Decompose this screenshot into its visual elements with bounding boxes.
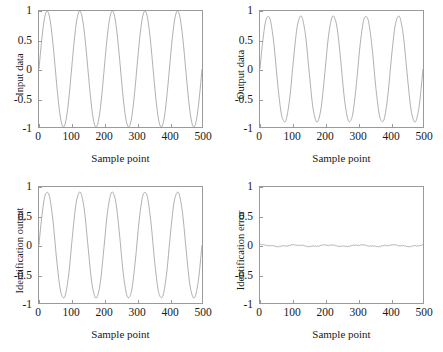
plot-svg-identification-error bbox=[260, 187, 423, 303]
curve-identification-output bbox=[39, 192, 202, 298]
plot-area-identification-error bbox=[259, 186, 424, 304]
x-tick-label: 400 bbox=[382, 306, 399, 318]
y-axis-label-output: Output data bbox=[235, 25, 246, 125]
curve-identification-error bbox=[260, 244, 423, 247]
curve-input-data bbox=[39, 11, 202, 127]
x-tick-label: 400 bbox=[161, 306, 178, 318]
panel-input-data: 10.50-0.5-1 0100200300400500 Input data … bbox=[0, 0, 222, 176]
x-tick-label: 100 bbox=[62, 130, 79, 142]
y-tick-label: 0 bbox=[26, 239, 32, 251]
y-tick-label: 0 bbox=[247, 239, 253, 251]
x-tick-labels-input: 0100200300400500 bbox=[38, 129, 203, 145]
x-tick-label: 400 bbox=[161, 130, 178, 142]
x-tick-label: 0 bbox=[35, 130, 41, 142]
plot-svg-output-data bbox=[260, 11, 423, 127]
x-tick-labels-identification-error: 0100200300400500 bbox=[259, 305, 424, 321]
x-tick-label: 300 bbox=[349, 306, 366, 318]
x-tick-label: 200 bbox=[316, 306, 333, 318]
x-tick-labels-output: 0100200300400500 bbox=[259, 129, 424, 145]
x-tick-label: 0 bbox=[35, 306, 41, 318]
x-tick-label: 0 bbox=[256, 306, 262, 318]
x-tick-labels-identification-output: 0100200300400500 bbox=[38, 305, 203, 321]
x-axis-label-identification-output: Sample point bbox=[38, 328, 203, 340]
x-axis-label-output: Sample point bbox=[259, 152, 424, 164]
y-tick-label: 0 bbox=[247, 63, 253, 75]
panel-identification-error: 10.50-0.5-1 0100200300400500 Identificat… bbox=[221, 176, 443, 352]
y-tick-label: 1 bbox=[26, 4, 32, 16]
y-axis-label-input: Input data bbox=[14, 25, 25, 125]
x-tick-label: 200 bbox=[95, 306, 112, 318]
x-tick-label: 200 bbox=[316, 130, 333, 142]
figure-four-panel-identification: 10.50-0.5-1 0100200300400500 Input data … bbox=[0, 0, 443, 352]
x-tick-label: 0 bbox=[256, 130, 262, 142]
y-tick-label: 1 bbox=[247, 180, 253, 192]
y-axis-label-identification-output: Identification output bbox=[14, 201, 25, 301]
y-tick-label: 1 bbox=[247, 4, 253, 16]
x-tick-label: 200 bbox=[95, 130, 112, 142]
x-tick-label: 400 bbox=[382, 130, 399, 142]
x-tick-label: 100 bbox=[283, 130, 300, 142]
y-tick-label: 0 bbox=[26, 63, 32, 75]
plot-area-input-data bbox=[38, 10, 203, 128]
y-axis-label-identification-error: Identification error bbox=[235, 201, 246, 301]
x-tick-label: 300 bbox=[349, 130, 366, 142]
panel-identification-output: 10.50-0.5-1 0100200300400500 Identificat… bbox=[0, 176, 222, 352]
x-tick-label: 300 bbox=[128, 130, 145, 142]
plot-area-output-data bbox=[259, 10, 424, 128]
x-tick-label: 300 bbox=[128, 306, 145, 318]
x-tick-label: 100 bbox=[62, 306, 79, 318]
x-tick-label: 500 bbox=[415, 306, 432, 318]
panel-output-data: 10.50-0.5-1 0100200300400500 Output data… bbox=[221, 0, 443, 176]
x-axis-label-input: Sample point bbox=[38, 152, 203, 164]
plot-svg-identification-output bbox=[39, 187, 202, 303]
x-tick-label: 500 bbox=[194, 306, 211, 318]
plot-svg-input-data bbox=[39, 11, 202, 127]
x-axis-label-identification-error: Sample point bbox=[259, 328, 424, 340]
curve-output-data bbox=[260, 16, 423, 122]
x-tick-label: 500 bbox=[415, 130, 432, 142]
x-tick-label: 100 bbox=[283, 306, 300, 318]
plot-area-identification-output bbox=[38, 186, 203, 304]
y-tick-label: 1 bbox=[26, 180, 32, 192]
x-tick-label: 500 bbox=[194, 130, 211, 142]
